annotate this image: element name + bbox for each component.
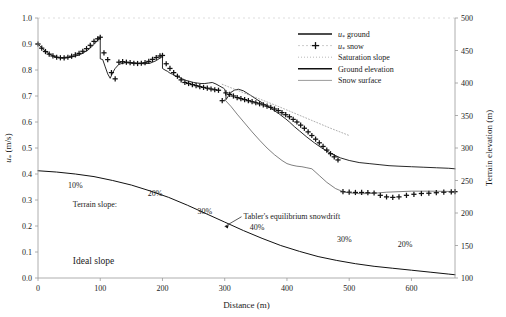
- legend-label: Snow surface: [338, 76, 382, 85]
- y2-tick-label: 400: [461, 79, 473, 88]
- annotation-label: Terrain slope:: [73, 200, 117, 209]
- y2-tick-label: 500: [461, 14, 473, 23]
- x-axis-label: Distance (m): [223, 300, 270, 310]
- y-tick-label: 0.2: [22, 222, 32, 231]
- y-tick-label: 0.6: [22, 118, 32, 127]
- y-tick-label: 0.0: [22, 274, 32, 283]
- scientific-chart: 0.00.10.20.30.40.50.60.70.80.91.01001502…: [0, 0, 506, 317]
- annotation-label: 10%: [68, 181, 83, 190]
- y-tick-label: 0.5: [22, 144, 32, 153]
- legend-label: Ground elevation: [338, 65, 394, 74]
- y-tick-label: 0.8: [22, 66, 32, 75]
- x-tick-label: 400: [281, 284, 293, 293]
- x-tick-label: 500: [343, 284, 355, 293]
- annotation-label: 20%: [148, 189, 163, 198]
- y-tick-label: 0.3: [22, 196, 32, 205]
- y-tick-label: 0.4: [22, 170, 32, 179]
- figure-container: 0.00.10.20.30.40.50.60.70.80.91.01001502…: [0, 0, 506, 317]
- annotation-label: Tabler's equilibrium snowdrift: [243, 212, 341, 221]
- x-tick-label: 300: [219, 284, 231, 293]
- y2-tick-label: 100: [461, 274, 473, 283]
- annotation-label: Ideal slope: [73, 256, 114, 266]
- legend-label: u* snow: [338, 42, 364, 52]
- y2-tick-label: 300: [461, 144, 473, 153]
- y2-tick-label: 150: [461, 242, 473, 251]
- x-tick-label: 600: [405, 284, 417, 293]
- y-tick-label: 0.9: [22, 40, 32, 49]
- annotation-label: 30%: [337, 235, 352, 244]
- y-tick-label: 0.7: [22, 92, 32, 101]
- x-tick-label: 200: [156, 284, 168, 293]
- y2-tick-label: 200: [461, 209, 473, 218]
- x-tick-label: 100: [94, 284, 106, 293]
- annotation-label: 40%: [250, 223, 265, 232]
- annotation-label: 20%: [398, 240, 413, 249]
- x-tick-label: 0: [36, 284, 40, 293]
- chart-background: [0, 0, 506, 317]
- y2-tick-label: 450: [461, 47, 473, 56]
- y2-axis-label: Terrain elevation (m): [484, 110, 494, 186]
- y-tick-label: 0.1: [22, 248, 32, 257]
- annotation-label: 30%: [197, 207, 212, 216]
- y2-tick-label: 350: [461, 112, 473, 121]
- legend-label: Saturation slope: [338, 53, 390, 62]
- y2-tick-label: 250: [461, 177, 473, 186]
- y-tick-label: 1.0: [22, 14, 32, 23]
